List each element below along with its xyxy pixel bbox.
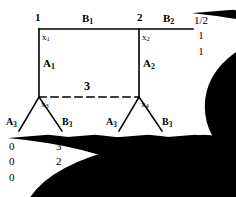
branch-label-A3-left: A3 xyxy=(6,117,17,129)
branch-label-B3-left: B3 xyxy=(62,117,72,129)
variable-label-x2: x2 xyxy=(142,33,150,43)
vector-leaf-1: 0 0 0 xyxy=(8,133,16,191)
variable-label-x1: x1 xyxy=(42,33,50,43)
edge-label-A1: A1 xyxy=(43,58,55,71)
vector-top-right: 1/2 1 1 xyxy=(193,8,209,64)
variable-label-x3: x3 xyxy=(41,100,49,110)
branch-label-A3-right: A3 xyxy=(106,117,117,129)
edge-label-B2: B2 xyxy=(163,13,174,26)
node-label-1: 1 xyxy=(35,12,41,23)
variable-label-x4: x4 xyxy=(141,100,149,110)
vector-leaf-4: 4 4 0 xyxy=(155,133,163,191)
bracket-right-icon xyxy=(155,133,236,197)
vector-leaf-3: 0 0 1 xyxy=(108,133,116,191)
node-label-2: 2 xyxy=(137,12,143,23)
branch-label-B3-right: B3 xyxy=(162,117,172,129)
vector-leaf-2: 3 2 2 xyxy=(55,133,63,191)
edge-line-A3-right xyxy=(119,97,139,131)
diagram-canvas: 1 2 B1 B2 x1 x2 A1 A2 3 x3 x4 A3 B3 A3 B… xyxy=(0,0,236,197)
edge-line-A3-left xyxy=(19,97,39,131)
edge-label-B1: B1 xyxy=(82,13,93,26)
edge-label-A2: A2 xyxy=(143,58,155,71)
dashed-edge-label-3: 3 xyxy=(84,80,90,92)
